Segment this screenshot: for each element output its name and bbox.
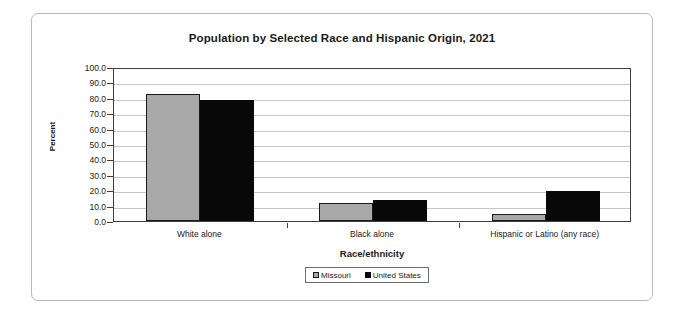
y-axis-tick-label: 70.0 bbox=[58, 109, 106, 119]
y-axis-tick-label: 50.0 bbox=[58, 140, 106, 150]
bar bbox=[146, 94, 200, 221]
bar bbox=[319, 203, 373, 221]
bar bbox=[492, 214, 546, 221]
legend-label: United States bbox=[373, 271, 421, 280]
plot-area bbox=[113, 68, 631, 222]
bar bbox=[373, 200, 427, 221]
y-axis-tick-label: 60.0 bbox=[58, 125, 106, 135]
y-axis-tick-label: 20.0 bbox=[58, 186, 106, 196]
bar bbox=[200, 100, 254, 221]
legend-label: Missouri bbox=[321, 271, 351, 280]
x-axis-category-label: White alone bbox=[99, 229, 299, 239]
legend-entry: United States bbox=[365, 271, 421, 280]
y-axis-tick-mark bbox=[107, 222, 113, 223]
category-tick-mark bbox=[459, 223, 460, 228]
x-axis-title: Race/ethnicity bbox=[113, 248, 631, 259]
category-tick-mark bbox=[287, 223, 288, 228]
chart-figure: Population by Selected Race and Hispanic… bbox=[0, 0, 681, 321]
y-axis-tick-label: 80.0 bbox=[58, 94, 106, 104]
y-axis-tick-label: 100.0 bbox=[58, 63, 106, 73]
legend-swatch-icon bbox=[365, 272, 371, 278]
y-axis-tick-label: 0.0 bbox=[58, 217, 106, 227]
legend-entry: Missouri bbox=[313, 271, 351, 280]
y-axis-tick-label: 30.0 bbox=[58, 171, 106, 181]
bar bbox=[546, 191, 600, 221]
y-axis-tick-label: 90.0 bbox=[58, 78, 106, 88]
y-axis-tick-label: 40.0 bbox=[58, 155, 106, 165]
chart-legend: MissouriUnited States bbox=[305, 267, 429, 283]
y-axis-title: Percent bbox=[48, 77, 57, 197]
x-axis-category-label: Black alone bbox=[272, 229, 472, 239]
legend-swatch-icon bbox=[313, 272, 319, 278]
x-axis-category-label: Hispanic or Latino (any race) bbox=[445, 229, 645, 239]
y-axis-tick-label: 10.0 bbox=[58, 202, 106, 212]
gridline bbox=[114, 84, 630, 85]
chart-title: Population by Selected Race and Hispanic… bbox=[31, 32, 653, 44]
